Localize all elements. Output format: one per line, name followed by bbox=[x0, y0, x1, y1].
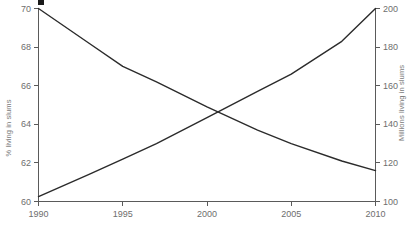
chart-background bbox=[0, 0, 412, 231]
right-tick-label: 180 bbox=[383, 42, 398, 52]
left-tick-label: 60 bbox=[21, 197, 31, 207]
left-tick-label: 66 bbox=[21, 81, 31, 91]
chart-figure: 70 68 66 64 62 60 200 180 160 140 120 10… bbox=[0, 0, 412, 231]
right-tick-label: 140 bbox=[383, 119, 398, 129]
x-tick-label: 2005 bbox=[281, 209, 301, 219]
x-tick-label: 1990 bbox=[28, 209, 48, 219]
dual-axis-line-chart: 70 68 66 64 62 60 200 180 160 140 120 10… bbox=[0, 0, 412, 231]
left-axis-title: % living in slums bbox=[4, 99, 13, 156]
right-tick-label: 120 bbox=[383, 158, 398, 168]
right-axis-title: Millions living in slums bbox=[397, 65, 406, 141]
left-tick-label: 62 bbox=[21, 158, 31, 168]
x-tick-label: 2000 bbox=[197, 209, 217, 219]
x-tick-label: 2010 bbox=[365, 209, 385, 219]
x-tick-label: 1995 bbox=[113, 209, 133, 219]
right-tick-label: 200 bbox=[383, 4, 398, 14]
right-tick-label: 160 bbox=[383, 81, 398, 91]
clipped-legend-swatch-icon bbox=[38, 0, 44, 5]
left-tick-label: 70 bbox=[21, 4, 31, 14]
left-tick-label: 68 bbox=[21, 42, 31, 52]
right-tick-label: 100 bbox=[383, 197, 398, 207]
left-tick-label: 64 bbox=[21, 119, 31, 129]
